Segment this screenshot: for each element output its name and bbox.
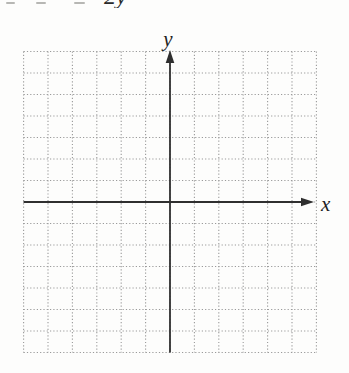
y-axis: y: [161, 27, 174, 353]
y-axis-label: y: [161, 27, 173, 51]
worksheet-page: 2y x y: [0, 0, 349, 373]
coordinate-plane-figure: x y: [0, 0, 349, 373]
x-axis-label: x: [320, 192, 331, 216]
x-axis-arrowhead-icon: [301, 198, 314, 207]
x-axis: x: [24, 192, 331, 216]
